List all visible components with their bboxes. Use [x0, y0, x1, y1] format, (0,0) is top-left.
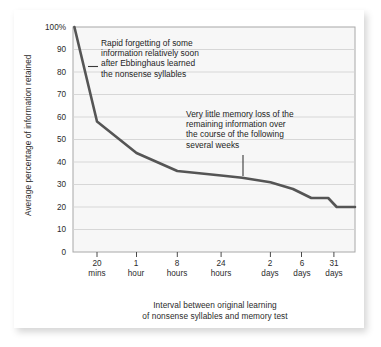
- y-axis-title: Average percentage of information retain…: [23, 35, 34, 235]
- y-tick-label-100: 100%: [40, 23, 66, 33]
- annotation-little-memory-loss: Very little memory loss of the remaining…: [186, 109, 336, 150]
- y-tick-label-40: 40: [40, 158, 66, 168]
- x-tick-label-31-days: 31 days: [317, 259, 351, 278]
- y-tick-label-60: 60: [40, 113, 66, 123]
- annotation-rapid-forgetting: Rapid forgetting of some information rel…: [101, 38, 236, 79]
- x-axis-ticks: [97, 252, 334, 257]
- x-tick-label-6-days: 6 days: [285, 259, 319, 278]
- x-tick-label-8-hours: 8 hours: [160, 259, 194, 278]
- x-tick-label-24-hours: 24 hours: [204, 259, 238, 278]
- x-tick-label-1-hour: 1 hour: [119, 259, 153, 278]
- y-tick-label-10: 10: [40, 225, 66, 235]
- y-tick-label-50: 50: [40, 135, 66, 145]
- y-tick-label-30: 30: [40, 180, 66, 190]
- y-tick-label-0: 0: [40, 248, 66, 258]
- x-axis-title: Interval between original learning of no…: [70, 300, 360, 321]
- x-tick-label-2-days: 2 days: [253, 259, 287, 278]
- y-tick-label-70: 70: [40, 90, 66, 100]
- y-tick-label-20: 20: [40, 203, 66, 213]
- chart-page: 100% 90 80 70 60 50 40 30 20 10 0 20 min…: [0, 0, 381, 347]
- y-tick-label-90: 90: [40, 45, 66, 55]
- x-tick-label-20-mins: 20 mins: [80, 259, 114, 278]
- y-tick-label-80: 80: [40, 68, 66, 78]
